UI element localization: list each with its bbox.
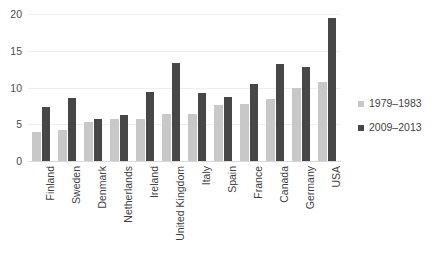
- bar: [198, 93, 207, 161]
- bar: [214, 105, 223, 161]
- bar-group: [162, 14, 180, 161]
- chart-title: [0, 0, 340, 2]
- bar: [68, 98, 77, 161]
- bar: [146, 92, 155, 161]
- bar: [302, 67, 311, 161]
- category-label: Denmark: [97, 166, 108, 209]
- bar-group: [136, 14, 154, 161]
- bar: [162, 114, 171, 161]
- bar-group: [292, 14, 310, 161]
- category-label: Germany: [305, 166, 316, 209]
- bar: [110, 119, 119, 161]
- bar: [32, 132, 41, 161]
- category-label: Sweden: [71, 166, 82, 204]
- bar-group: [240, 14, 258, 161]
- bar-group: [32, 14, 50, 161]
- bar: [250, 84, 259, 161]
- bar: [42, 107, 51, 161]
- bar: [84, 122, 93, 161]
- bar-group: [318, 14, 336, 161]
- bar: [224, 97, 233, 161]
- bar: [318, 82, 327, 161]
- bar: [120, 115, 129, 161]
- category-label: Finland: [45, 166, 56, 200]
- bar: [292, 88, 301, 162]
- bar: [328, 18, 337, 161]
- bar-chart: 05101520 FinlandSwedenDenmarkNetherlands…: [0, 0, 435, 258]
- bar: [276, 64, 285, 161]
- bar: [240, 104, 249, 161]
- y-tick-15: 15: [0, 46, 22, 56]
- legend-item[interactable]: 2009–2013: [358, 122, 422, 133]
- category-label: Italy: [201, 166, 212, 185]
- plot-area: [28, 14, 340, 161]
- legend-swatch-icon: [358, 125, 364, 131]
- bar-group: [84, 14, 102, 161]
- chart-legend: 1979–19832009–2013: [358, 98, 422, 146]
- category-label: Spain: [227, 166, 238, 193]
- bar: [172, 63, 181, 161]
- legend-label: 2009–2013: [369, 122, 422, 133]
- x-axis-line: [28, 161, 341, 162]
- y-tick-20: 20: [0, 9, 22, 19]
- bar: [94, 119, 103, 161]
- category-label: Ireland: [149, 166, 160, 198]
- bar: [266, 99, 275, 161]
- legend-label: 1979–1983: [369, 98, 422, 109]
- bar: [188, 114, 197, 161]
- bar-group: [58, 14, 76, 161]
- category-label: Canada: [279, 166, 290, 203]
- y-tick-10: 10: [0, 83, 22, 93]
- category-label: Netherlands: [123, 166, 134, 223]
- bar: [136, 119, 145, 161]
- bar-group: [214, 14, 232, 161]
- legend-item[interactable]: 1979–1983: [358, 98, 422, 109]
- category-label: United Kingdom: [175, 166, 186, 241]
- bar-group: [110, 14, 128, 161]
- category-label: France: [253, 166, 264, 199]
- category-label: USA: [331, 166, 342, 188]
- bar-group: [266, 14, 284, 161]
- bar-group: [188, 14, 206, 161]
- legend-swatch-icon: [358, 101, 364, 107]
- bar: [58, 130, 67, 161]
- y-tick-0: 0: [0, 156, 22, 166]
- y-tick-5: 5: [0, 119, 22, 129]
